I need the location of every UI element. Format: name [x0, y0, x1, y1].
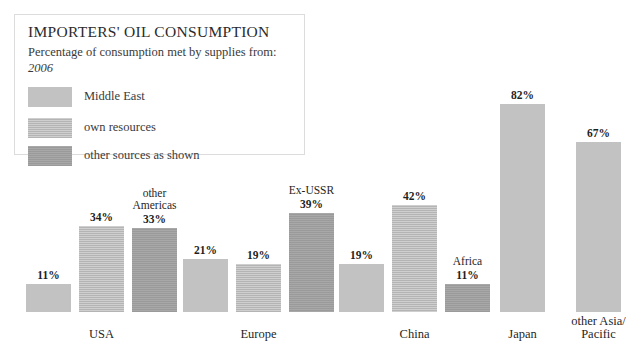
bar: 19%	[236, 264, 281, 312]
bar: 33%otherAmericas	[132, 228, 177, 312]
bar: 19%	[339, 264, 384, 312]
bar-value-label: 82%	[511, 89, 534, 101]
bar: 67%	[576, 142, 621, 312]
bar-group: 21%19%39%Ex-USSREurope	[183, 0, 334, 359]
bar: 42%	[392, 205, 437, 312]
bar-group: 67%other Asia/Pacific	[576, 0, 621, 359]
bar-value-label: 21%	[194, 244, 217, 256]
group-axis-label: Japan	[508, 328, 536, 341]
bar-value-label: 11%	[37, 269, 59, 281]
bar-plot-area: 11%34%33%otherAmericasUSA21%19%39%Ex-USS…	[0, 0, 643, 359]
group-axis-label: Europe	[240, 328, 276, 341]
bar: 34%	[79, 226, 124, 312]
group-axis-label: other Asia/Pacific	[571, 315, 626, 341]
bar-value-label: 11%	[456, 269, 478, 281]
bar: 39%Ex-USSR	[289, 213, 334, 312]
group-axis-label: USA	[89, 328, 114, 341]
bar-value-label: 42%	[403, 190, 426, 202]
bar-group: 19%42%11%AfricaChina	[339, 0, 490, 359]
bar-value-label: 67%	[587, 127, 610, 139]
bar-source-label: Africa	[453, 256, 482, 268]
bar-value-label: 19%	[247, 249, 270, 261]
bar-value-label: 19%	[350, 249, 373, 261]
bar: 82%	[500, 104, 545, 312]
bar-group: 82%Japan	[500, 0, 545, 359]
bar-group: 11%34%33%otherAmericasUSA	[26, 0, 177, 359]
chart-root: IMPORTERS' OIL CONSUMPTION Percentage of…	[0, 0, 643, 359]
bar-value-label: 39%	[300, 198, 323, 210]
bar: 11%	[26, 284, 71, 312]
bar-value-label: 33%	[143, 213, 166, 225]
bar: 21%	[183, 259, 228, 312]
group-axis-label: China	[400, 328, 430, 341]
bar-source-label: otherAmericas	[132, 188, 176, 211]
bar-value-label: 34%	[90, 211, 113, 223]
bar: 11%Africa	[445, 284, 490, 312]
bar-source-label: Ex-USSR	[289, 185, 334, 197]
